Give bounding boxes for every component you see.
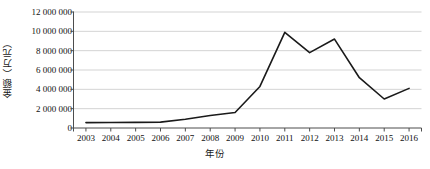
x-axis-tick-label: 2008	[201, 134, 219, 143]
x-axis-tick-label: 2011	[276, 134, 294, 143]
x-axis-tick-label: 2016	[400, 134, 418, 143]
x-axis-tick-label: 2010	[251, 134, 269, 143]
x-axis-tick-label: 2007	[176, 134, 194, 143]
x-axis-tick-label: 2013	[326, 134, 344, 143]
x-axis-tick-label: 2005	[127, 134, 145, 143]
x-axis-tick-label: 2004	[102, 134, 120, 143]
plot-area	[0, 0, 430, 169]
x-axis-tick-label: 2003	[77, 134, 95, 143]
x-axis-title: 年份	[0, 150, 430, 160]
x-axis-tick-label: 2012	[301, 134, 319, 143]
x-axis-tick-label: 2006	[152, 134, 170, 143]
x-axis-tick-label: 2009	[226, 134, 244, 143]
chart-figure: 金额（万元） 02 000 0004 000 0006 000 0008 000…	[0, 0, 430, 169]
x-axis-tick-label: 2015	[375, 134, 393, 143]
x-axis-tick-label: 2014	[350, 134, 368, 143]
